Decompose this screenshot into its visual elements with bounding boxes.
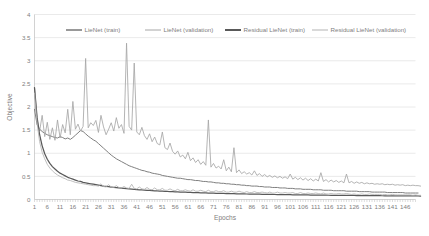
y-tick-label: 1: [27, 149, 31, 156]
plot-background: [0, 0, 429, 236]
x-tick-label: 51: [159, 203, 166, 210]
x-tick-label: 126: [349, 203, 360, 210]
x-tick-label: 31: [108, 203, 115, 210]
x-tick-label: 1: [33, 203, 37, 210]
y-axis-title: Objective: [6, 93, 14, 121]
x-tick-label: 6: [46, 203, 50, 210]
objective-vs-epochs-line-chart: 00.511.522.533.54 1611162126313641465156…: [0, 0, 429, 236]
x-tick-label: 96: [274, 203, 281, 210]
y-tick-label: 1.5: [22, 126, 31, 133]
x-tick-label: 66: [197, 203, 204, 210]
x-tick-label: 111: [311, 203, 321, 210]
x-tick-label: 101: [285, 203, 296, 210]
x-tick-label: 136: [375, 203, 386, 210]
x-tick-label: 36: [121, 203, 128, 210]
chart-container: 00.511.522.533.54 1611162126313641465156…: [0, 0, 429, 236]
x-tick-label: 131: [362, 203, 373, 210]
x-tick-label: 26: [95, 203, 102, 210]
x-tick-label: 116: [324, 203, 334, 210]
x-tick-label: 41: [133, 203, 140, 210]
x-tick-label: 76: [223, 203, 230, 210]
legend-label: Residual LieNet (validation): [331, 26, 407, 33]
x-tick-label: 86: [248, 203, 255, 210]
x-tick-label: 11: [57, 203, 64, 210]
y-tick-label: 2: [27, 103, 31, 110]
legend-label: LieNet (train): [85, 26, 121, 33]
x-tick-label: 21: [82, 203, 89, 210]
y-tick-label: 0.5: [22, 173, 31, 180]
y-tick-label: 3: [27, 57, 31, 64]
x-axis-title: Epochs: [214, 214, 237, 222]
x-tick-label: 71: [210, 203, 217, 210]
y-tick-label: 3.5: [22, 34, 31, 41]
x-tick-label: 81: [236, 203, 243, 210]
x-tick-label: 16: [69, 203, 76, 210]
x-tick-label: 141: [387, 203, 398, 210]
x-tick-label: 146: [400, 203, 411, 210]
legend-label: Residual LieNet (train): [244, 26, 306, 33]
x-tick-label: 121: [336, 203, 347, 210]
x-tick-label: 106: [298, 203, 309, 210]
y-tick-label: 0: [27, 196, 31, 203]
y-tick-label: 2.5: [22, 80, 31, 87]
x-tick-label: 61: [184, 203, 191, 210]
x-tick-label: 46: [146, 203, 153, 210]
x-tick-label: 56: [172, 203, 179, 210]
x-tick-label: 91: [261, 203, 268, 210]
legend-label: LieNet (validation): [164, 26, 214, 33]
y-tick-label: 4: [27, 11, 31, 18]
